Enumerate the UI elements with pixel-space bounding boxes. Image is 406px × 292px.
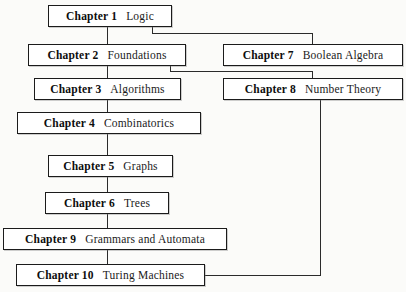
node-chapter-10[interactable]: Chapter 10 Turing Machines: [16, 264, 205, 286]
node-chapter-1-title: Logic: [126, 10, 154, 22]
node-chapter-1-number: Chapter 1: [66, 10, 117, 22]
node-chapter-6[interactable]: Chapter 6 Trees: [45, 192, 169, 214]
node-chapter-8-title: Number Theory: [305, 83, 381, 95]
node-chapter-2-number: Chapter 2: [47, 49, 98, 61]
edge-ch2-ch8-horizontal: [170, 71, 313, 72]
node-chapter-5-title: Graphs: [123, 160, 157, 172]
edge-ch9-ch10-vertical: [107, 250, 108, 264]
node-chapter-6-title: Trees: [124, 197, 150, 209]
node-chapter-8[interactable]: Chapter 8 Number Theory: [223, 78, 403, 100]
edge-ch3-ch4-vertical: [107, 100, 108, 112]
node-chapter-7-number: Chapter 7: [243, 49, 294, 61]
node-chapter-7[interactable]: Chapter 7 Boolean Algebra: [223, 44, 403, 66]
edge-ch8-ch10-vertical: [320, 100, 321, 276]
node-chapter-4[interactable]: Chapter 4 Combinatorics: [17, 112, 201, 134]
node-chapter-6-number: Chapter 6: [64, 197, 115, 209]
node-chapter-2[interactable]: Chapter 2 Foundations: [28, 44, 186, 66]
node-chapter-9-title: Grammars and Automata: [85, 233, 205, 245]
node-chapter-7-title: Boolean Algebra: [303, 49, 384, 61]
node-chapter-9[interactable]: Chapter 9 Grammars and Automata: [3, 228, 227, 250]
edge-ch1-ch2-vertical: [107, 27, 108, 44]
node-chapter-3[interactable]: Chapter 3 Algorithms: [34, 78, 181, 100]
edge-ch1-ch7-drop: [312, 33, 313, 44]
edge-ch1-ch7-horizontal: [152, 33, 313, 34]
node-chapter-8-number: Chapter 8: [245, 83, 296, 95]
edge-ch5-ch6-vertical: [107, 177, 108, 192]
node-chapter-10-title: Turing Machines: [103, 269, 184, 281]
node-chapter-3-number: Chapter 3: [50, 83, 101, 95]
node-chapter-2-title: Foundations: [108, 49, 167, 61]
node-chapter-4-number: Chapter 4: [44, 117, 95, 129]
node-chapter-1[interactable]: Chapter 1 Logic: [48, 5, 172, 27]
node-chapter-5[interactable]: Chapter 5 Graphs: [48, 155, 173, 177]
chapter-dependency-diagram: Chapter 1 Logic Chapter 2 Foundations Ch…: [0, 0, 406, 292]
edge-ch8-ch10-horizontal: [205, 275, 321, 276]
node-chapter-10-number: Chapter 10: [37, 269, 94, 281]
edge-ch4-ch5-vertical: [107, 134, 108, 155]
edge-ch2-ch8-drop: [312, 71, 313, 78]
edge-ch6-ch9-vertical: [107, 214, 108, 228]
node-chapter-5-number: Chapter 5: [63, 160, 114, 172]
node-chapter-3-title: Algorithms: [110, 83, 164, 95]
node-chapter-4-title: Combinatorics: [104, 117, 174, 129]
node-chapter-9-number: Chapter 9: [25, 233, 76, 245]
edge-ch2-ch3-vertical: [107, 66, 108, 78]
